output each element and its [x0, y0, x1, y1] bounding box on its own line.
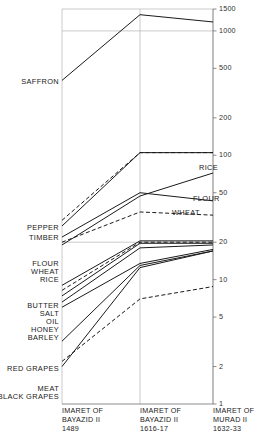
y-tick-label-1500: 1500: [219, 5, 236, 13]
series-label-left-barley: BARLEY: [28, 334, 59, 342]
series-lines: [62, 15, 213, 367]
series-label-left-rice: RICE: [40, 276, 59, 284]
series-label-left-saffron: SAFFRON: [21, 78, 59, 86]
x-cat-1-line2: BAYAZID II: [62, 415, 103, 424]
series-label-right-wheat: WHEAT: [172, 209, 200, 217]
x-cat-3-line2: MURAD II: [213, 415, 254, 424]
y-tick-label-20: 20: [219, 238, 227, 246]
series-line-butter: [62, 241, 213, 285]
axes: [62, 9, 213, 404]
series-line-meat: [62, 287, 213, 362]
y-tick-label-2: 2: [219, 363, 223, 371]
series-label-right-flour: FLOUR: [193, 195, 220, 203]
chart-container: 12510205010020050010001500 SAFFRONPEPPER…: [0, 0, 258, 442]
y-tick-label-500: 500: [219, 64, 232, 72]
x-axis-category-2: IMARET OF BAYAZID II 1616-17: [140, 406, 181, 434]
tick-marks: [213, 9, 217, 404]
x-cat-2-line2: BAYAZID II: [140, 415, 181, 424]
y-tick-label-200: 200: [219, 114, 232, 122]
x-cat-1-line3: 1489: [62, 424, 103, 433]
series-line-barley: [62, 249, 213, 307]
series-label-left-pepper: PEPPER: [27, 224, 59, 232]
x-cat-2-line3: 1616-17: [140, 424, 181, 433]
series-line-saffron: [62, 15, 213, 81]
series-label-left-black-grapes: BLACK GRAPES: [0, 393, 59, 401]
y-tick-label-1000: 1000: [219, 27, 236, 35]
series-label-left-timber: TIMBER: [29, 234, 59, 242]
series-line-oil: [62, 243, 213, 296]
x-cat-2-line1: IMARET OF: [140, 406, 181, 415]
y-tick-label-10: 10: [219, 276, 227, 284]
x-cat-3-line1: IMARET OF: [213, 406, 254, 415]
x-axis-category-3: IMARET OF MURAD II 1632-33: [213, 406, 254, 434]
series-label-left-red-grapes: RED GRAPES: [7, 365, 59, 373]
y-tick-label-5: 5: [219, 313, 223, 321]
y-tick-label-100: 100: [219, 151, 232, 159]
series-label-right-rice: RICE: [199, 164, 218, 172]
x-cat-3-line3: 1632-33: [213, 424, 254, 433]
y-tick-label-50: 50: [219, 189, 227, 197]
x-axis-category-1: IMARET OF BAYAZID II 1489: [62, 406, 103, 434]
series-label-left-wheat: WHEAT: [31, 268, 59, 276]
x-cat-1-line1: IMARET OF: [62, 406, 103, 415]
